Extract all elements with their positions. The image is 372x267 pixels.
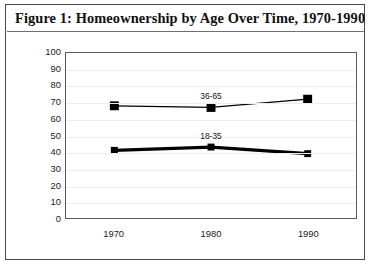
data-point-marker [208,144,215,151]
y-tick-label: 70 [15,97,61,107]
chart-area: 0102030405060708090100 19701980199036-65… [6,32,364,260]
y-tick-label: 100 [15,47,61,57]
y-tick-label: 80 [15,80,61,90]
grid-line [66,203,356,204]
y-tick-label: 0 [15,214,61,224]
grid-line [66,153,356,154]
y-tick-label: 10 [15,197,61,207]
grid-line [66,170,356,171]
grid-line [66,70,356,71]
y-tick-label: 60 [15,114,61,124]
grid-line [66,86,356,87]
x-tick-label: 1970 [84,228,144,239]
series-label: 18-35 [200,131,221,141]
figure-frame: Figure 1: Homeownership by Age Over Time… [5,4,365,260]
y-tick-label: 90 [15,64,61,74]
series-label: 36-65 [200,91,221,101]
grid-line [66,187,356,188]
grid-line [66,103,356,104]
figure-title: Figure 1: Homeownership by Age Over Time… [15,10,361,27]
x-tick-label: 1980 [181,228,241,239]
y-tick-label: 30 [15,164,61,174]
y-axis-tick-labels: 0102030405060708090100 [11,52,61,219]
data-point-marker [207,103,216,112]
grid-line [66,120,356,121]
y-tick-label: 50 [15,131,61,141]
y-tick-label: 40 [15,147,61,157]
x-tick-label: 1990 [278,228,338,239]
y-tick-label: 20 [15,181,61,191]
